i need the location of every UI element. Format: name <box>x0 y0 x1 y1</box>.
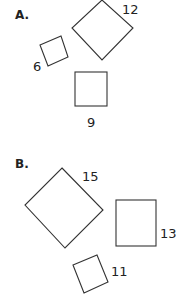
section-a-label-12: 12 <box>122 2 139 17</box>
section-a-square-9 <box>75 72 107 106</box>
section-b-label: B. <box>15 157 29 171</box>
section-a-label-6: 6 <box>33 59 41 74</box>
section-b-label-15: 15 <box>82 169 99 184</box>
section-b-label-11: 11 <box>111 264 128 279</box>
section-b-label-13: 13 <box>160 226 177 241</box>
squares-diagram: A. 12 6 9 B. 15 13 11 <box>0 0 181 307</box>
section-b-square-11 <box>73 255 108 293</box>
section-a-label-9: 9 <box>87 115 95 130</box>
section-a-label: A. <box>15 8 29 22</box>
section-a-square-6 <box>40 36 68 66</box>
section-b-square-13 <box>116 200 156 246</box>
